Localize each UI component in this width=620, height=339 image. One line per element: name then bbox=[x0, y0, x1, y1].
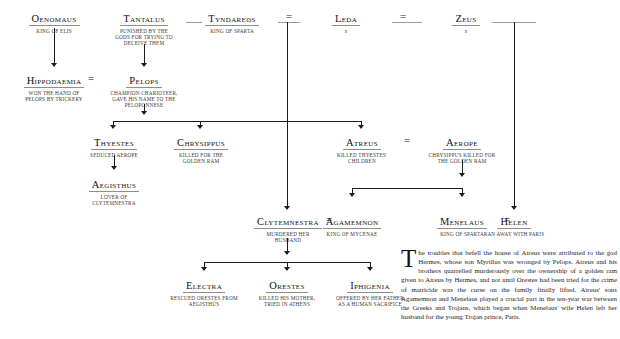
node-leda-desc: x bbox=[300, 28, 392, 34]
drop-cap-letter: T bbox=[401, 248, 418, 268]
node-agamemnon: Agamemnon KING OF MYCENAE bbox=[306, 211, 398, 237]
line-tantalus-to-pelops bbox=[144, 44, 145, 64]
node-pelops: Pelops CHAMPION CHARIOTEER, GAVE HIS NAM… bbox=[98, 70, 190, 109]
node-tantalus: Tantalus PUNISHED BY THE GODS FOR TRYING… bbox=[98, 8, 190, 47]
node-orestes-name: Orestes bbox=[266, 280, 307, 293]
node-orestes: Orestes KILLED HIS MOTHER, TRIED IN ATHE… bbox=[241, 275, 333, 307]
node-helen-name: Helen bbox=[497, 216, 530, 229]
arrow-to-thyestes bbox=[110, 125, 116, 129]
sibling-bar-atreus-children bbox=[352, 188, 462, 189]
marriage-symbol-tyndareos-leda: = bbox=[286, 11, 292, 22]
node-thyestes-name: Thyestes bbox=[91, 137, 137, 150]
node-hippodaemia-name: Hippodaemia bbox=[24, 75, 85, 88]
arrow-to-helen bbox=[511, 206, 517, 210]
arrow-pelops-down bbox=[141, 111, 147, 115]
node-oenomaus-name: Oenomaus bbox=[29, 13, 80, 26]
node-zeus-desc: x bbox=[420, 28, 512, 34]
marriage-symbol-atreus-aerope: = bbox=[404, 135, 410, 146]
arrow-to-chrysippus bbox=[197, 125, 203, 129]
node-electra-desc: RESCUED ORESTES FROM AEGISTHUS bbox=[158, 295, 250, 308]
line-zeus-to-helen bbox=[514, 22, 515, 208]
node-pelops-name: Pelops bbox=[126, 75, 161, 88]
arrow-to-iphigenia bbox=[367, 267, 373, 271]
arrow-to-electra bbox=[201, 267, 207, 271]
sibling-bar-pelops-children bbox=[113, 121, 361, 122]
node-tyndareos-desc: KING OF SPARTA bbox=[186, 28, 278, 34]
node-tyndareos-name: Tyndareos bbox=[205, 13, 259, 26]
marriage-symbol-leda-zeus: = bbox=[400, 11, 406, 22]
node-aegisthus-desc: LOVER OF CLYTEMNESTRA bbox=[68, 194, 160, 207]
explanatory-paragraph: The troubles that befell the house of At… bbox=[401, 248, 617, 321]
node-electra-name: Electra bbox=[183, 280, 225, 293]
arrow-to-aegisthus bbox=[111, 166, 117, 170]
node-leda: Leda x bbox=[300, 8, 392, 34]
node-zeus-name: Zeus bbox=[452, 13, 479, 26]
node-iphigenia-name: Iphigenia bbox=[347, 280, 393, 293]
node-atreus-name: Atreus bbox=[343, 137, 381, 150]
rule-tyndareos-left-extend bbox=[186, 22, 202, 23]
node-hippodaemia-desc: WON THE HAND OF PELOPS BY TRICKERY bbox=[6, 90, 102, 103]
node-orestes-desc: KILLED HIS MOTHER, TRIED IN ATHENS bbox=[241, 295, 333, 308]
node-aegisthus-name: Aegisthus bbox=[89, 179, 140, 192]
node-helen: Helen RAN AWAY WITH PARIS bbox=[468, 211, 560, 237]
node-leda-name: Leda bbox=[332, 13, 360, 26]
arrow-clytemnestra-agamemnon-down bbox=[284, 251, 290, 255]
node-helen-desc: RAN AWAY WITH PARIS bbox=[468, 231, 560, 237]
line-oenomaus-to-hippodaemia bbox=[54, 28, 55, 64]
marriage-rule-tyndareos-leda bbox=[278, 22, 300, 23]
line-atreus-aerope-down bbox=[462, 160, 463, 174]
node-aegisthus: Aegisthus LOVER OF CLYTEMNESTRA bbox=[68, 174, 160, 206]
node-atreus-desc: KILLED THYESTES' CHILDREN bbox=[316, 152, 408, 165]
arrow-to-agamemnon bbox=[349, 193, 355, 197]
node-aerope-name: Aerope bbox=[443, 137, 481, 150]
arrow-to-orestes bbox=[284, 267, 290, 271]
marriage-rule-leda-zeus bbox=[392, 22, 422, 23]
node-chrysippus-desc: KILLED FOR THE GOLDEN RAM bbox=[155, 152, 247, 165]
arrow-atreus-aerope-down bbox=[459, 173, 465, 177]
node-tantalus-name: Tantalus bbox=[120, 13, 167, 26]
node-chrysippus: Chrysippus KILLED FOR THE GOLDEN RAM bbox=[155, 132, 247, 164]
node-agamemnon-name: Agamemnon bbox=[323, 216, 382, 229]
node-chrysippus-name: Chrysippus bbox=[174, 137, 228, 150]
node-agamemnon-desc: KING OF MYCENAE bbox=[306, 231, 398, 237]
node-atreus: Atreus KILLED THYESTES' CHILDREN bbox=[316, 132, 408, 164]
arrow-to-menelaus bbox=[459, 193, 465, 197]
arrow-to-pelops bbox=[141, 63, 147, 67]
node-electra: Electra RESCUED ORESTES FROM AEGISTHUS bbox=[158, 275, 250, 307]
arrow-to-clytemnestra bbox=[284, 206, 290, 210]
line-clytemnestra-agamemnon-down bbox=[287, 238, 288, 252]
line-leda-to-clytemnestra bbox=[287, 22, 288, 208]
arrow-to-hippodaemia bbox=[51, 63, 57, 67]
marriage-symbol-hippodaemia-pelops: = bbox=[88, 73, 94, 84]
prose-body-text: he troubles that befell the house of Atr… bbox=[401, 249, 617, 320]
arrow-to-atreus bbox=[358, 125, 364, 129]
